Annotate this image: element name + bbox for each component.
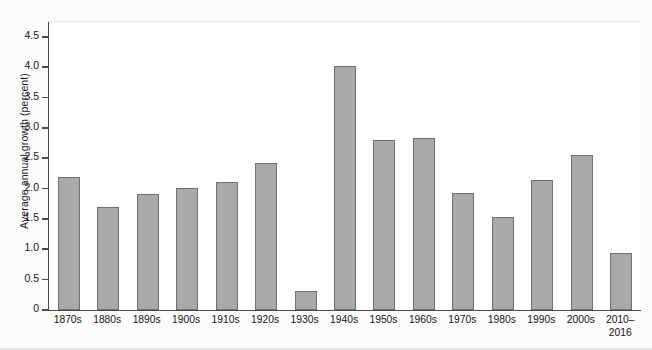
y-tick-label: 0.5: [24, 272, 39, 284]
y-tick-label: 4.5: [24, 29, 39, 41]
bar-1990s: [531, 180, 553, 310]
y-tick-mark: [42, 66, 48, 68]
y-tick-label: 4.0: [24, 59, 39, 71]
bar-2000s: [571, 155, 593, 310]
bar-1870s: [58, 177, 80, 310]
y-tick-label: 2.5: [24, 150, 39, 162]
bar-1950s: [373, 140, 395, 310]
y-tick-label: 1.5: [24, 211, 39, 223]
bar-1960s: [413, 138, 435, 310]
y-tick-label: 3.5: [24, 90, 39, 102]
bar-1920s: [255, 163, 277, 310]
y-tick-mark: [42, 97, 48, 99]
y-tick-label: 2.0: [24, 181, 39, 193]
y-tick-label: 3.0: [24, 120, 39, 132]
y-tick-mark: [42, 157, 48, 159]
bar-1880s: [97, 207, 119, 310]
y-tick-label: 1.0: [24, 241, 39, 253]
y-tick-mark: [42, 279, 48, 281]
bar-1900s: [176, 188, 198, 310]
bar-1970s: [452, 193, 474, 310]
plot-area: [48, 22, 641, 311]
bar-2010–2016: [610, 253, 632, 310]
bar-1890s: [137, 194, 159, 310]
y-tick-mark: [42, 248, 48, 250]
y-tick-mark: [42, 188, 48, 190]
y-tick-mark: [42, 309, 48, 311]
y-tick-mark: [42, 127, 48, 129]
y-tick-mark: [42, 36, 48, 38]
bar-1910s: [216, 182, 238, 310]
bar-1930s: [295, 291, 317, 310]
y-tick-mark: [42, 218, 48, 220]
bar-1940s: [334, 66, 356, 310]
x-tick-label: 2010– 2016: [594, 314, 646, 339]
bar-chart: Average annual growth (percent) 00.51.01…: [0, 0, 652, 350]
y-tick-label: 0: [33, 302, 39, 314]
bar-1980s: [492, 217, 514, 310]
